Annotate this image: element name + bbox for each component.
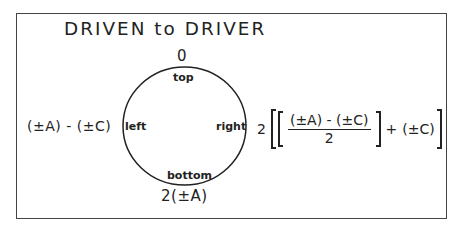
inner-right-bracket (376, 111, 381, 147)
right-formula: 2 (±A) - (±C) 2 + (±C) (257, 107, 442, 151)
formula-fraction: (±A) - (±C) 2 (288, 112, 371, 147)
bottom-label: bottom (167, 169, 212, 182)
inner-left-bracket (278, 111, 283, 147)
top-label: top (173, 71, 194, 84)
outer-left-bracket (271, 109, 276, 149)
top-value: 0 (177, 47, 187, 65)
outer-right-bracket (437, 109, 442, 149)
left-value: (±A) - (±C) (27, 118, 111, 134)
left-label: left (125, 120, 146, 133)
fraction-numerator: (±A) - (±C) (288, 112, 371, 130)
formula-plus: + (386, 121, 398, 137)
bottom-value: 2(±A) (161, 187, 208, 205)
formula-coefficient: 2 (257, 121, 266, 137)
right-label: right (216, 120, 246, 133)
fraction-denominator: 2 (325, 130, 334, 147)
formula-addend: (±C) (402, 121, 434, 137)
